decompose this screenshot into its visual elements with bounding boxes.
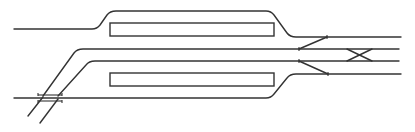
underpass-line-a xyxy=(28,97,43,116)
track-layout-diagram xyxy=(0,0,415,132)
platforms xyxy=(110,23,274,86)
switch-lower xyxy=(299,61,328,74)
switches xyxy=(299,35,328,76)
platform-lower xyxy=(110,73,274,86)
underpass-line-b xyxy=(40,99,58,123)
scissors-crossover xyxy=(347,49,372,61)
platform-upper xyxy=(110,23,274,36)
switch-upper xyxy=(299,37,327,49)
